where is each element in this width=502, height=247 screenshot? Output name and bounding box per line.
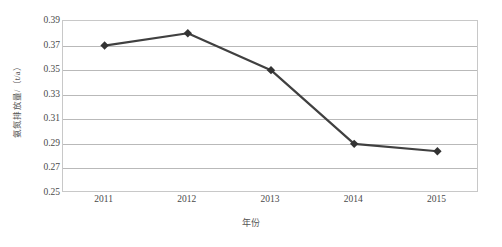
y-axis-tick-label: 0.25 xyxy=(43,187,60,197)
data-point-marker xyxy=(100,41,108,49)
y-axis-tick-label: 0.33 xyxy=(43,89,60,99)
y-axis-tick-label: 0.29 xyxy=(43,138,60,148)
x-axis-tick-label: 2015 xyxy=(427,194,446,204)
series-line xyxy=(105,33,438,151)
x-axis-tick-label: 2012 xyxy=(177,194,196,204)
data-point-marker xyxy=(184,29,192,37)
x-axis-tick-labels: 20112012201320142015 xyxy=(62,194,478,212)
data-point-marker xyxy=(433,147,441,155)
line-chart-figure: 氨氮排放量/（t/a） 0.390.370.350.330.310.290.27… xyxy=(0,0,502,247)
x-axis-tick-label: 2011 xyxy=(94,194,113,204)
y-axis-tick-label: 0.31 xyxy=(43,113,60,123)
series-svg xyxy=(63,21,479,193)
y-axis-tick-label: 0.35 xyxy=(43,64,60,74)
x-axis-tick-label: 2014 xyxy=(344,194,363,204)
y-axis-title-label: 氨氮排放量/（t/a） xyxy=(10,62,22,138)
data-series-layer xyxy=(63,21,477,191)
x-axis-title: 年份 xyxy=(0,216,502,229)
x-axis-tick-label: 2013 xyxy=(261,194,280,204)
y-axis-tick-label: 0.27 xyxy=(43,162,60,172)
x-axis-title-label: 年份 xyxy=(242,218,260,228)
y-axis-title: 氨氮排放量/（t/a） xyxy=(6,0,26,200)
y-axis-tick-label: 0.39 xyxy=(43,15,60,25)
plot-area xyxy=(62,20,478,192)
y-axis-tick-labels: 0.390.370.350.330.310.290.270.25 xyxy=(26,20,60,192)
y-axis-tick-label: 0.37 xyxy=(43,40,60,50)
